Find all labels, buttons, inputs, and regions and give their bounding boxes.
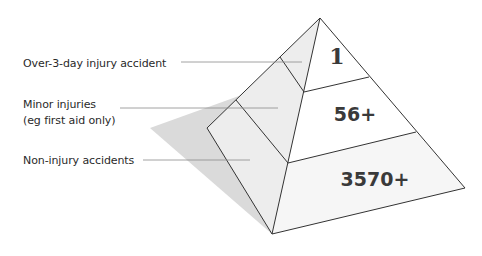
label-minor-injuries-note: (eg first aid only) — [23, 113, 115, 129]
label-over-3-day-injury: Over-3-day injury accident — [23, 56, 166, 72]
value-over-3-day: 1 — [322, 43, 352, 69]
label-minor-injuries: Minor injuries — [23, 97, 96, 113]
label-non-injury-accidents: Non-injury accidents — [23, 153, 134, 169]
value-non-injury-accidents: 3570+ — [325, 168, 425, 190]
value-minor-injuries: 56+ — [320, 103, 390, 125]
